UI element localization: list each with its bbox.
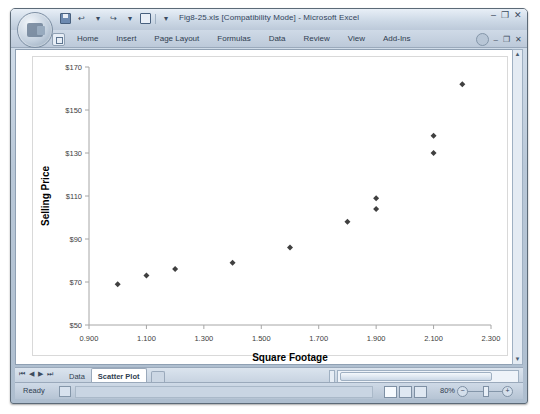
excel-window: Fig8-25.xls [Compatibility Mode] - Micro… [10, 8, 528, 404]
ribbon-window-controls: – ❐ ✕ [476, 33, 522, 46]
data-point [115, 281, 121, 287]
prev-sheet-icon[interactable]: ◀ [29, 370, 34, 378]
ribbon-minimize-button[interactable]: – [494, 35, 498, 44]
y-axis-title: Selling Price [40, 166, 51, 226]
window-frame: Fig8-25.xls [Compatibility Mode] - Micro… [10, 8, 528, 404]
status-filler [75, 386, 373, 398]
data-point [172, 266, 178, 272]
page-break-view-icon[interactable] [414, 386, 427, 398]
zoom-slider-handle[interactable] [483, 386, 489, 397]
zoom-in-button[interactable]: + [502, 386, 513, 397]
x-tick-label: 2.300 [482, 334, 501, 343]
y-tick-label: $70 [69, 278, 82, 287]
scroll-down-icon[interactable]: ▼ [513, 355, 522, 364]
data-point [143, 273, 149, 279]
window-controls: – ❐ ✕ [491, 11, 522, 20]
save-icon [60, 13, 71, 24]
first-sheet-icon[interactable]: ⏮ [19, 370, 25, 378]
quick-access-toolbar: ↩ ▾ ↪ ▾ ▾ [59, 12, 172, 25]
tab-formulas[interactable]: Formulas [208, 30, 259, 47]
undo-dropdown-icon[interactable]: ▾ [91, 12, 104, 25]
undo-button[interactable]: ↩ [75, 12, 88, 25]
data-point [459, 81, 465, 87]
sheet-tab-bar: ⏮ ◀ ▶ ⏭ Data Scatter Plot [15, 367, 523, 383]
sheet-tab-scatter-plot[interactable]: Scatter Plot [91, 368, 147, 383]
help-icon[interactable] [476, 33, 489, 46]
sheet-tabs: Data Scatter Plot [63, 368, 165, 383]
y-tick-label: $90 [69, 235, 82, 244]
office-button[interactable] [17, 12, 53, 48]
last-sheet-icon[interactable]: ⏭ [47, 370, 53, 378]
macro-record-icon[interactable] [59, 386, 71, 397]
redo-dropdown-icon[interactable]: ▾ [123, 12, 136, 25]
ribbon-restore-button[interactable]: ❐ [503, 35, 510, 44]
ribbon-close-button[interactable]: ✕ [515, 35, 522, 44]
x-tick-label: 1.300 [194, 334, 213, 343]
next-sheet-icon[interactable]: ▶ [38, 370, 43, 378]
tab-view[interactable]: View [339, 30, 374, 47]
x-tick-label: 0.900 [80, 334, 99, 343]
y-tick-label: $130 [65, 149, 82, 158]
sheet-nav-buttons: ⏮ ◀ ▶ ⏭ [19, 370, 53, 378]
ribbon-selector-icon[interactable] [52, 33, 65, 46]
x-tick-label: 1.100 [137, 334, 156, 343]
worksheet-area: $50$70$90$110$130$150$1700.9001.1001.300… [15, 49, 523, 365]
x-tick-label: 1.500 [252, 334, 271, 343]
status-bar: Ready 80% − + [15, 382, 523, 399]
tab-page-layout[interactable]: Page Layout [145, 30, 208, 47]
normal-view-icon[interactable] [384, 386, 397, 398]
page-layout-view-icon[interactable] [399, 386, 412, 398]
x-tick-label: 2.100 [424, 334, 443, 343]
save-button[interactable] [59, 12, 72, 25]
close-button[interactable]: ✕ [514, 11, 522, 20]
status-text: Ready [23, 386, 45, 395]
data-point [431, 133, 437, 139]
tab-review[interactable]: Review [295, 30, 339, 47]
zoom-level: 80% [440, 386, 455, 395]
y-tick-label: $50 [69, 321, 82, 330]
minimize-button[interactable]: – [491, 11, 496, 20]
office-logo-icon [27, 23, 43, 37]
scroll-up-icon[interactable]: ▲ [513, 50, 522, 59]
tab-home[interactable]: Home [68, 30, 107, 47]
x-tick-label: 1.700 [309, 334, 328, 343]
x-tick-label: 1.900 [367, 334, 386, 343]
x-axis-title: Square Footage [252, 352, 328, 363]
vertical-scrollbar[interactable]: ▲ ▼ [512, 49, 523, 365]
data-point [373, 195, 379, 201]
redo-button[interactable]: ↪ [107, 12, 120, 25]
y-tick-label: $170 [65, 63, 82, 72]
customize-toolbar-icon[interactable]: ▾ [159, 12, 172, 25]
data-point [431, 150, 437, 156]
data-point [373, 206, 379, 212]
tab-add-ins[interactable]: Add-Ins [374, 30, 420, 47]
ribbon-tab-bar: Home Insert Page Layout Formulas Data Re… [11, 30, 527, 48]
tab-insert[interactable]: Insert [107, 30, 145, 47]
data-point [344, 219, 350, 225]
scatter-chart: $50$70$90$110$130$150$1700.9001.1001.300… [33, 57, 505, 377]
toolbar-divider [155, 14, 156, 24]
title-bar: Fig8-25.xls [Compatibility Mode] - Micro… [11, 9, 527, 30]
ribbon-tabs: Home Insert Page Layout Formulas Data Re… [68, 30, 420, 47]
print-preview-button[interactable] [139, 12, 152, 25]
data-point [287, 245, 293, 251]
print-icon [140, 13, 151, 24]
y-tick-label: $150 [65, 106, 82, 115]
horizontal-scroll-thumb[interactable] [340, 372, 492, 381]
zoom-out-button[interactable]: − [457, 386, 468, 397]
y-tick-label: $110 [66, 192, 82, 201]
sheet-tab-data[interactable]: Data [63, 369, 91, 383]
data-point [230, 260, 236, 266]
maximize-button[interactable]: ❐ [501, 11, 509, 20]
zoom-slider[interactable]: − + [457, 386, 513, 396]
view-buttons [384, 386, 427, 398]
tab-data[interactable]: Data [260, 30, 295, 47]
chart-object[interactable]: $50$70$90$110$130$150$1700.9001.1001.300… [32, 56, 508, 356]
